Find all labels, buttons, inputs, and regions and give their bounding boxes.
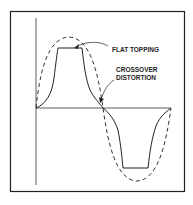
flat-topping-pointer xyxy=(76,42,108,47)
crossover-label-line1: CROSSOVER xyxy=(116,66,158,73)
flat-topping-label: FLAT TOPPING xyxy=(112,46,159,53)
waveform-diagram: FLAT TOPPING CROSSOVER DISTORTION xyxy=(0,0,193,205)
crossover-label-line2: DISTORTION xyxy=(116,74,156,81)
crossover-pointer xyxy=(101,80,114,100)
